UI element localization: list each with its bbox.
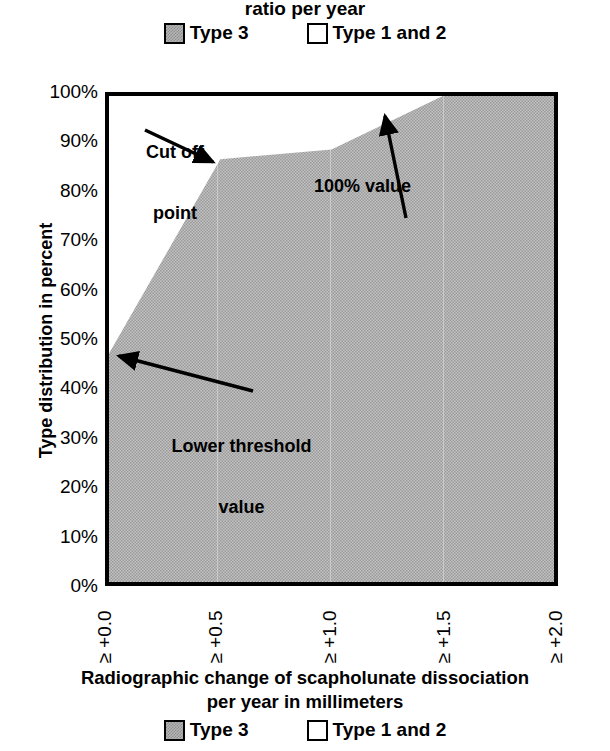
annotation-cutoff-line1: Cut off: [121, 142, 229, 162]
x-tick-label: ≥ +2.0: [545, 601, 567, 673]
legend-bottom: Type 3 Type 1 and 2: [0, 719, 610, 741]
legend-entry-type1and2: Type 1 and 2: [307, 719, 447, 741]
y-tick-label: 30%: [26, 427, 98, 449]
y-tick-label: 80%: [26, 180, 98, 202]
legend-entry-type3: Type 3: [164, 22, 249, 44]
x-tick-label: ≥ +1.0: [319, 601, 341, 673]
legend-label-type3: Type 3: [190, 719, 249, 741]
annotation-hundred-percent: 100% value: [314, 176, 411, 196]
x-axis-title-line1: Radiographic change of scapholunate diss…: [0, 666, 610, 690]
annotation-cutoff: Cut off point: [121, 102, 229, 263]
annotation-cutoff-line2: point: [121, 203, 229, 223]
x-axis-title-line2: per year in millimeters: [0, 690, 610, 714]
legend-label-type1and2: Type 1 and 2: [333, 719, 447, 741]
y-tick-label: 50%: [26, 328, 98, 350]
white-square-swatch-icon: [307, 23, 328, 44]
gray-square-swatch-icon: [164, 23, 185, 44]
y-tick-label: 60%: [26, 279, 98, 301]
y-tick-label: 70%: [26, 229, 98, 251]
y-tick-label: 100%: [26, 81, 98, 103]
gridline-vertical: [443, 96, 444, 582]
plot-area: Cut off point 100% value Lower threshold…: [105, 92, 558, 586]
y-tick-label: 10%: [26, 526, 98, 548]
x-tick-label: ≥ +0.0: [94, 601, 116, 673]
annotation-lower-line2: value: [134, 497, 349, 517]
annotation-lower-threshold: Lower threshold value: [134, 396, 349, 557]
x-tick: ≥ +1.0: [317, 590, 343, 662]
annotation-lower-line1: Lower threshold: [134, 436, 349, 456]
y-tick-label: 90%: [26, 130, 98, 152]
legend-label-type1and2: Type 1 and 2: [333, 22, 447, 44]
legend-entry-type1and2: Type 1 and 2: [307, 22, 447, 44]
x-axis-tick-labels: ≥ +0.0 ≥ +0.5 ≥ +1.0 ≥ +1.5 ≥ +2.0: [105, 590, 558, 662]
x-axis-title: Radiographic change of scapholunate diss…: [0, 666, 610, 713]
x-tick: ≥ +0.5: [203, 590, 229, 662]
legend-label-type3: Type 3: [190, 22, 249, 44]
y-tick-label: 20%: [26, 476, 98, 498]
x-tick: ≥ +1.5: [431, 590, 457, 662]
x-tick-label: ≥ +1.5: [433, 601, 455, 673]
plot-inner: Cut off point 100% value Lower threshold…: [109, 96, 554, 582]
legend-top: Type 3 Type 1 and 2: [0, 22, 610, 44]
y-tick-label: 0%: [26, 575, 98, 597]
gray-square-swatch-icon: [164, 720, 185, 741]
y-tick-label: 40%: [26, 377, 98, 399]
white-square-swatch-icon: [307, 720, 328, 741]
x-tick-label: ≥ +0.5: [205, 601, 227, 673]
legend-entry-type3: Type 3: [164, 719, 249, 741]
x-tick: ≥ +0.0: [92, 590, 118, 662]
x-tick: ≥ +2.0: [543, 590, 569, 662]
chart-title: ratio per year: [0, 0, 610, 20]
y-axis-tick-labels: 100% 90% 80% 70% 60% 50% 40% 30% 20% 10%…: [26, 92, 98, 586]
